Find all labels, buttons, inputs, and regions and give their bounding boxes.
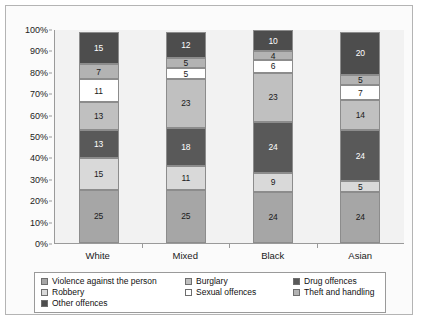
plot-area: 2515131311715251118235512249242364102452… bbox=[54, 30, 404, 244]
x-axis-tick-label: Asian bbox=[348, 250, 372, 261]
bar-segment[interactable]: 14 bbox=[340, 100, 380, 130]
legend-item[interactable]: Burglary bbox=[185, 276, 228, 286]
bar-segment[interactable]: 4 bbox=[253, 51, 293, 60]
legend-item[interactable]: Theft and handling bbox=[293, 287, 374, 297]
bar-group: 251118235512 bbox=[142, 30, 229, 243]
bar-segment[interactable]: 23 bbox=[253, 73, 293, 122]
bar-segment[interactable]: 5 bbox=[166, 68, 206, 79]
chart-frame: 0%10%20%30%40%50%60%70%80%90%100% 251513… bbox=[5, 5, 413, 315]
bar-segment-value: 10 bbox=[268, 36, 277, 46]
legend-label: Robbery bbox=[52, 287, 84, 297]
bar-segment[interactable]: 25 bbox=[166, 190, 206, 243]
legend-swatch-icon bbox=[185, 278, 192, 285]
x-axis-tick-label: Black bbox=[261, 250, 284, 261]
legend-label: Drug offences bbox=[304, 276, 357, 286]
bar-segment[interactable]: 6 bbox=[253, 60, 293, 73]
bar-segment[interactable]: 24 bbox=[253, 122, 293, 173]
y-axis-tick-mark bbox=[49, 72, 52, 73]
bar-segment[interactable]: 20 bbox=[340, 32, 380, 75]
bar-segment-value: 13 bbox=[94, 139, 103, 149]
bar-segment-value: 7 bbox=[96, 67, 101, 77]
bar-segment[interactable]: 12 bbox=[166, 32, 206, 58]
y-axis-tick-label: 60% bbox=[30, 111, 48, 121]
legend-label: Violence against the person bbox=[52, 276, 157, 286]
bar-segment[interactable]: 15 bbox=[79, 32, 119, 64]
legend-item[interactable]: Sexual offences bbox=[185, 287, 256, 297]
y-axis-tick-mark bbox=[49, 94, 52, 95]
bar-segment-value: 18 bbox=[181, 142, 190, 152]
bar-segment[interactable]: 10 bbox=[253, 30, 293, 51]
bar-segment[interactable]: 24 bbox=[340, 130, 380, 181]
bar-segment[interactable]: 15 bbox=[79, 158, 119, 190]
legend-item[interactable]: Robbery bbox=[41, 287, 84, 297]
bar-segment-value: 20 bbox=[356, 48, 365, 58]
y-axis-tick-mark bbox=[49, 158, 52, 159]
y-axis-tick-mark bbox=[49, 179, 52, 180]
y-axis-tick-label: 100% bbox=[25, 25, 48, 35]
bar-segment-value: 11 bbox=[94, 86, 103, 96]
bar-segment[interactable]: 18 bbox=[166, 128, 206, 166]
x-axis-tick-label: White bbox=[86, 250, 110, 261]
bar-segment[interactable]: 11 bbox=[166, 166, 206, 189]
bar-segment[interactable]: 5 bbox=[166, 58, 206, 69]
bar-stack[interactable]: 24524147520 bbox=[340, 30, 380, 243]
bar-segment[interactable]: 7 bbox=[79, 64, 119, 79]
bar-segment-value: 25 bbox=[181, 211, 190, 221]
y-axis: 0%10%20%30%40%50%60%70%80%90%100% bbox=[14, 23, 52, 251]
bar-segment[interactable]: 13 bbox=[79, 102, 119, 130]
x-axis-tick-mark bbox=[229, 244, 230, 248]
bar-segment-value: 5 bbox=[358, 75, 363, 85]
y-axis-tick-mark bbox=[49, 222, 52, 223]
legend-item[interactable]: Other offences bbox=[41, 298, 108, 308]
legend-swatch-icon bbox=[185, 289, 192, 296]
bar-segment[interactable]: 24 bbox=[253, 192, 293, 243]
bar-segment-value: 15 bbox=[94, 43, 103, 53]
bar-segment[interactable]: 25 bbox=[79, 190, 119, 243]
legend-swatch-icon bbox=[41, 300, 48, 307]
legend-item[interactable]: Drug offences bbox=[293, 276, 357, 286]
bar-segment-value: 23 bbox=[268, 92, 277, 102]
x-axis: WhiteMixedBlackAsian bbox=[54, 248, 404, 264]
bar-stack[interactable]: 2515131311715 bbox=[79, 30, 119, 243]
legend-label: Theft and handling bbox=[304, 287, 374, 297]
bar-segment-value: 24 bbox=[356, 151, 365, 161]
bar-segment[interactable]: 23 bbox=[166, 79, 206, 128]
bar-segment-value: 7 bbox=[358, 88, 363, 98]
bar-segment[interactable]: 11 bbox=[79, 79, 119, 102]
bar-segment-value: 5 bbox=[184, 69, 189, 79]
legend-label: Burglary bbox=[196, 276, 228, 286]
legend-swatch-icon bbox=[41, 278, 48, 285]
legend-item[interactable]: Violence against the person bbox=[41, 276, 157, 286]
x-axis-tick-label: Mixed bbox=[173, 250, 198, 261]
y-axis-tick-label: 40% bbox=[30, 153, 48, 163]
bar-stack[interactable]: 24924236410 bbox=[253, 30, 293, 243]
legend-swatch-icon bbox=[41, 289, 48, 296]
y-axis-tick-mark bbox=[49, 137, 52, 138]
bar-segment-value: 12 bbox=[181, 40, 190, 50]
bar-segment[interactable]: 9 bbox=[253, 173, 293, 192]
bar-segment-value: 15 bbox=[94, 169, 103, 179]
x-axis-tick-mark bbox=[317, 244, 318, 248]
bar-segment-value: 24 bbox=[356, 212, 365, 222]
legend-label: Other offences bbox=[52, 298, 108, 308]
y-axis-tick-label: 70% bbox=[30, 89, 48, 99]
legend-label: Sexual offences bbox=[196, 287, 256, 297]
bar-group: 24524147520 bbox=[317, 30, 404, 243]
y-axis-tick-mark bbox=[49, 115, 52, 116]
y-axis-tick-label: 0% bbox=[35, 239, 48, 249]
y-axis-tick-mark bbox=[49, 244, 52, 245]
y-axis-tick-label: 80% bbox=[30, 68, 48, 78]
bar-segment[interactable]: 7 bbox=[340, 85, 380, 100]
y-axis-tick-label: 10% bbox=[30, 218, 48, 228]
bar-segment[interactable]: 24 bbox=[340, 192, 380, 243]
bar-segment[interactable]: 5 bbox=[340, 181, 380, 192]
bar-stack[interactable]: 251118235512 bbox=[166, 30, 206, 243]
legend-swatch-icon bbox=[293, 278, 300, 285]
bar-segment-value: 25 bbox=[94, 211, 103, 221]
bar-segment[interactable]: 5 bbox=[340, 75, 380, 86]
y-axis-tick-label: 20% bbox=[30, 196, 48, 206]
bar-segment[interactable]: 13 bbox=[79, 130, 119, 158]
bar-segment-value: 6 bbox=[271, 61, 276, 71]
bar-group: 24924236410 bbox=[230, 30, 317, 243]
bar-segment-value: 14 bbox=[356, 110, 365, 120]
